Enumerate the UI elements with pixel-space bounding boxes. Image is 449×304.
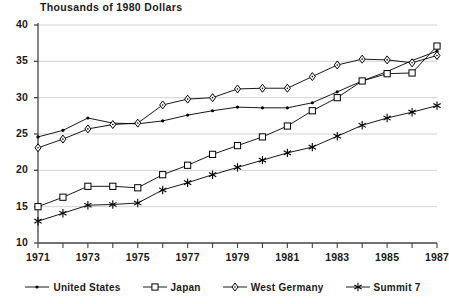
x-axis-label: 1981 (275, 251, 299, 263)
legend-marker-square-icon (143, 281, 167, 293)
legend-item-united-states[interactable]: United States (25, 281, 120, 293)
x-axis-label: 1973 (76, 251, 100, 263)
chart-legend: United StatesJapanWest GermanySummit 7 (0, 277, 446, 297)
legend-label: Summit 7 (374, 282, 421, 293)
legend-label: Japan (171, 282, 201, 293)
legend-marker-diamond-icon (223, 281, 247, 293)
x-axis-label: 1983 (325, 251, 349, 263)
x-axis-label: 1977 (176, 251, 200, 263)
legend-marker-asterisk-icon (346, 281, 370, 293)
data-point-dot (36, 285, 39, 288)
legend-item-summit-7[interactable]: Summit 7 (346, 281, 421, 293)
legend-item-west-germany[interactable]: West Germany (223, 281, 324, 293)
x-axis-label: 1985 (375, 251, 399, 263)
data-point-square (151, 284, 157, 290)
data-point-diamond (232, 283, 238, 291)
legend-item-japan[interactable]: Japan (143, 281, 201, 293)
x-axis-label: 1987 (425, 251, 449, 263)
x-axis-label: 1975 (126, 251, 150, 263)
x-axis-label: 1979 (225, 251, 249, 263)
legend-label: United States (53, 282, 120, 293)
legend-label: West Germany (251, 282, 324, 293)
x-axis-label: 1971 (26, 251, 50, 263)
legend-marker-dot-icon (25, 281, 49, 293)
